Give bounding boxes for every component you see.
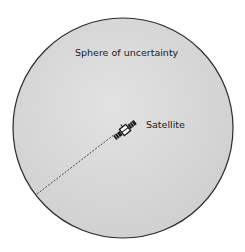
sphere-label: Sphere of uncertainty — [75, 47, 178, 58]
diagram-canvas — [0, 0, 245, 252]
sphere-of-uncertainty-diagram: Sphere of uncertainty Satellite — [0, 0, 245, 252]
satellite-label: Satellite — [146, 119, 185, 130]
